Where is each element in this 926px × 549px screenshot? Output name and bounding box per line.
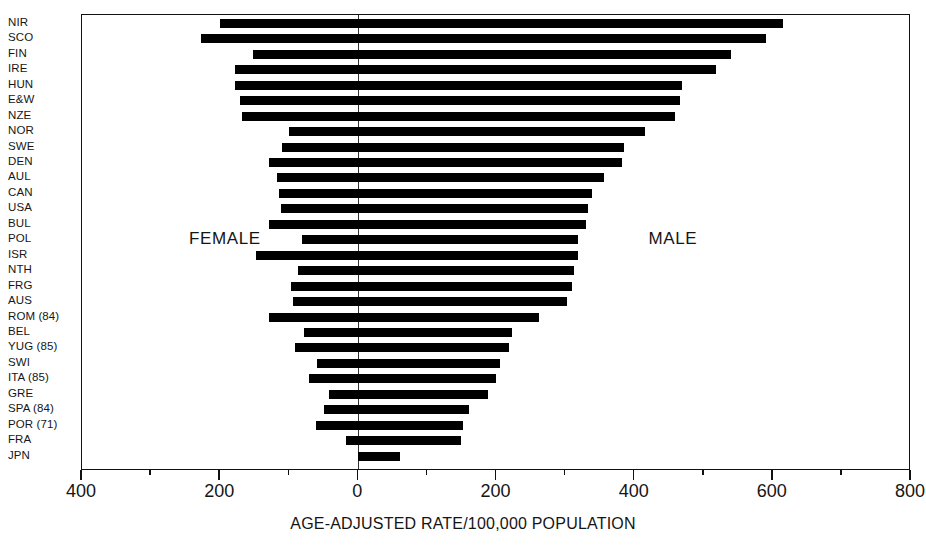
category-label: YUG (85) [8,341,80,353]
bar-e-w [240,96,680,105]
axis-tick-minor [288,470,290,475]
x-axis-title: AGE-ADJUSTED RATE/100,000 POPULATION [0,515,926,533]
axis-tick-major [495,470,497,480]
bar-aus [293,297,567,306]
bar-rom-84- [269,313,540,322]
category-label: NIR [8,17,80,29]
bar-ire [235,65,716,74]
axis-tick-major [80,470,82,480]
bar-isr [256,251,578,260]
category-label: POR (71) [8,419,80,431]
bar-pol [302,235,578,244]
category-label: CAN [8,187,80,199]
male-region-label: MALE [648,229,697,249]
bar-bel [304,328,511,337]
axis-tick-minor [426,470,428,475]
axis-tick-major [218,470,220,480]
female-region-label: FEMALE [189,229,261,249]
category-label: POL [8,233,80,245]
axis-tick-minor [149,470,151,475]
bar-spa-84- [324,405,469,414]
category-label: FRG [8,280,80,292]
category-label: BUL [8,218,80,230]
category-label: IRE [8,63,80,75]
category-label: USA [8,202,80,214]
bar-nir [220,19,783,28]
bar-sco [201,34,766,43]
category-label: JPN [8,450,80,462]
bar-swi [317,359,500,368]
bar-fra [346,436,461,445]
category-label: FIN [8,48,80,60]
bar-ita-85- [309,374,497,383]
bar-frg [291,282,573,291]
category-label: NTH [8,264,80,276]
bar-den [269,158,623,167]
category-label: BEL [8,326,80,338]
x-tick-label: 400 [66,481,96,502]
category-label: SCO [8,32,80,44]
bar-nth [298,266,574,275]
category-label: E&W [8,94,80,106]
bar-bul [269,220,587,229]
bar-jpn [358,452,399,461]
bar-fin [253,50,731,59]
category-label: AUS [8,295,80,307]
chart-root: NIRSCOFINIREHUNE&WNZENORSWEDENAULCANUSAB… [0,0,926,549]
bar-yug-85- [295,343,509,352]
category-label: ITA (85) [8,372,80,384]
category-label: GRE [8,388,80,400]
category-label: HUN [8,79,80,91]
bar-por-71- [316,421,464,430]
x-tick-label: 400 [619,481,649,502]
bar-usa [281,204,588,213]
axis-tick-minor [564,470,566,475]
category-label: ROM (84) [8,311,80,323]
category-axis-labels: NIRSCOFINIREHUNE&WNZENORSWEDENAULCANUSAB… [8,14,80,470]
bar-can [279,189,592,198]
category-label: SWI [8,357,80,369]
axis-tick-major [633,470,635,480]
x-tick-label: 0 [352,481,362,502]
x-axis-tick-labels: 4002000200400600800 [0,481,926,505]
bar-gre [329,390,488,399]
axis-tick-minor [840,470,842,475]
axis-tick-major [357,470,359,480]
axis-tick-major [771,470,773,480]
category-label: AUL [8,171,80,183]
category-label: SPA (84) [8,403,80,415]
category-label: NZE [8,110,80,122]
category-label: SWE [8,141,80,153]
x-tick-label: 200 [204,481,234,502]
category-label: FRA [8,434,80,446]
bar-hun [235,81,681,90]
x-tick-label: 200 [480,481,510,502]
bar-swe [282,143,624,152]
category-label: DEN [8,156,80,168]
plot-area: FEMALE MALE [81,14,910,470]
axis-tick-major [909,470,911,480]
bar-nze [242,112,674,121]
x-tick-label: 800 [895,481,925,502]
axis-tick-minor [702,470,704,475]
category-label: NOR [8,125,80,137]
x-tick-label: 600 [757,481,787,502]
bar-nor [289,127,645,136]
x-axis-ticks [81,470,910,480]
category-label: ISR [8,249,80,261]
bar-aul [277,173,604,182]
